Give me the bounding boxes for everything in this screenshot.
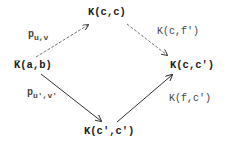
arrow-bottom-to-right: [117, 75, 172, 122]
node-left: K̅(a,b): [14, 60, 52, 71]
edge-label-sub: u,v: [34, 33, 48, 42]
node-bottom: K(c′,c′): [84, 126, 134, 137]
edge-label-sub: u′,v′: [33, 91, 57, 100]
node-top: K(c,c): [88, 7, 126, 18]
edge-label-top-right: K(c,f′): [157, 27, 199, 37]
edge-label-left-top: pu,v: [28, 30, 48, 42]
node-right: K(c,c′): [170, 60, 214, 71]
edge-label-bottom-right: K(f,c′): [169, 94, 211, 104]
edge-label-left-bottom: pu′,v′: [27, 88, 57, 100]
arrows-layer: [0, 0, 227, 145]
